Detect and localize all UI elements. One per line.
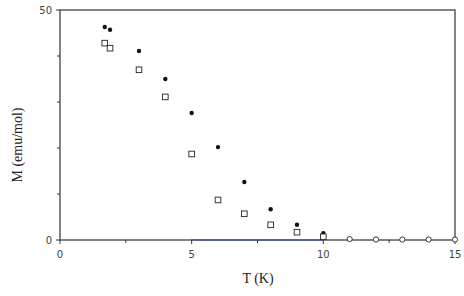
y-axis-title: M (emu/mol) xyxy=(10,107,26,182)
open-circle-marker xyxy=(452,237,457,242)
filled-circle-marker xyxy=(268,207,272,211)
plot-frame xyxy=(60,10,455,240)
filled-circle-marker xyxy=(242,180,246,184)
filled-circle-marker xyxy=(108,28,112,32)
filled-circle-marker xyxy=(295,223,299,227)
open-circle-marker xyxy=(373,237,378,242)
filled-circle-marker xyxy=(103,25,107,29)
filled-circle-marker xyxy=(137,49,141,53)
open-square-marker xyxy=(268,222,274,228)
y-tick-label: 50 xyxy=(39,5,52,16)
open-square-marker xyxy=(294,229,300,235)
open-square-marker xyxy=(215,197,221,203)
open-circle-marker xyxy=(347,236,352,241)
filled-circle-marker xyxy=(216,145,220,149)
open-square-marker xyxy=(321,234,327,240)
open-square-marker xyxy=(189,151,195,157)
x-tick-label: 0 xyxy=(57,249,63,260)
open-square-marker xyxy=(102,40,108,46)
open-square-marker xyxy=(136,67,142,73)
x-tick-label: 5 xyxy=(188,249,194,260)
open-square-marker xyxy=(242,211,248,217)
y-tick-label: 0 xyxy=(46,235,52,246)
open-circle-marker xyxy=(426,237,431,242)
x-tick-label: 15 xyxy=(449,249,462,260)
open-square-marker xyxy=(107,45,113,51)
magnetization-chart: 051015 050 T (K) M (emu/mol) xyxy=(0,0,464,296)
open-square-marker xyxy=(163,94,169,100)
x-axis-ticks: 051015 xyxy=(57,240,462,260)
open-circle-marker xyxy=(400,237,405,242)
filled-circle-marker xyxy=(189,111,193,115)
y-axis-ticks: 050 xyxy=(39,5,60,246)
data-points xyxy=(102,25,458,242)
x-axis-title: T (K) xyxy=(242,271,274,287)
x-tick-label: 10 xyxy=(317,249,330,260)
filled-circle-marker xyxy=(163,77,167,81)
